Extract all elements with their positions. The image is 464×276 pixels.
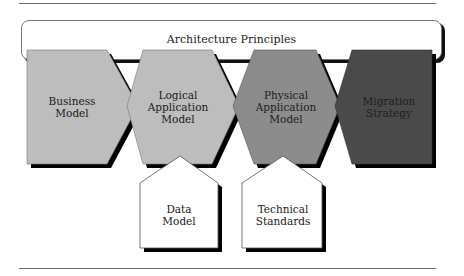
process-flow-diagram [0, 0, 464, 276]
data-model-label: Data Model [162, 203, 195, 227]
physical-application-model-label: Physical Application Model [256, 89, 317, 125]
migration-strategy-label: Migration Strategy [363, 95, 416, 119]
logical-application-model-label: Logical Application Model [148, 89, 209, 125]
business-model-label: Business Model [49, 95, 96, 119]
bottom-rule [19, 268, 436, 269]
technical-standards-label: Technical Standards [256, 203, 311, 227]
input-technical-standards [242, 156, 322, 248]
input-data-model [140, 156, 218, 248]
